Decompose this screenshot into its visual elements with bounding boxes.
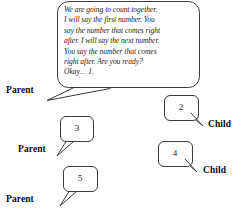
bubble-text-parent-instruction: We are going to count together. I will s…	[64, 5, 196, 78]
bubble-tail-parent-3	[57, 142, 74, 157]
bubble-tail-parent-5	[60, 192, 77, 207]
bubble-text-child-4: 4	[158, 148, 192, 158]
bubble-tail-child-2	[191, 113, 203, 126]
speaker-label-parent-3: Parent	[6, 194, 34, 204]
speaker-label-child-1: Child	[208, 119, 231, 129]
bubble-text-parent-5: 5	[63, 173, 97, 183]
dialogue-diagram: We are going to count together. I will s…	[0, 0, 245, 212]
bubble-tail-child-4	[185, 159, 197, 172]
bubble-text-parent-3: 3	[60, 123, 94, 133]
speaker-label-child-2: Child	[203, 165, 226, 175]
speaker-label-parent-2: Parent	[18, 144, 46, 154]
bubble-text-child-2: 2	[164, 102, 198, 112]
bubble-tail-parent-instruction	[47, 88, 110, 101]
speaker-label-parent-1: Parent	[6, 85, 34, 95]
